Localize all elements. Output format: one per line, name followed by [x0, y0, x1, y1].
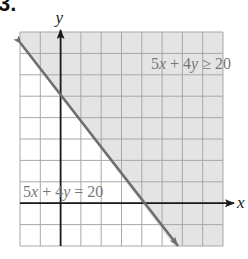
boundary-equation-label: 5x + 4y = 20 [23, 183, 103, 201]
inequality-label: 5x + 4y ≥ 20 [151, 55, 231, 73]
problem-number: 3. [0, 0, 16, 17]
x-axis-label: x [236, 193, 245, 212]
y-axis-label: y [54, 8, 64, 27]
graph-figure: 3. x y 5x + 4y ≥ 20 5x + 4y = 20 [0, 0, 248, 259]
coordinate-plane: x y 5x + 4y ≥ 20 5x + 4y = 20 [0, 0, 248, 259]
